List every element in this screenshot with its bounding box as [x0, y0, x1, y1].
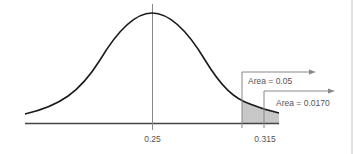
tick-label-mean: 0.25 — [144, 134, 161, 144]
area2-arrowhead-icon — [328, 89, 335, 94]
area2-label: Area = 0.0170 — [276, 98, 330, 108]
area1-label: Area = 0.05 — [248, 76, 292, 86]
tick-label-value: 0.315 — [254, 134, 276, 144]
normal-curve-chart: Area = 0.05 Area = 0.0170 0.25 0.315 — [0, 0, 354, 154]
area1-arrowhead-icon — [309, 70, 316, 75]
